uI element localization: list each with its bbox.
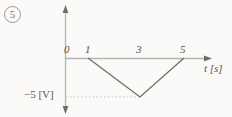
x-axis-arrow-right-icon [204, 56, 212, 62]
x-tick-label-1: 1 [85, 44, 91, 55]
x-tick-label-5: 5 [180, 44, 186, 55]
x-axis [65, 56, 212, 62]
y-axis-voltage-label: −5 [V] [24, 89, 54, 100]
waveform-figure: 5 0 1 3 5 t [s] −5 [V] [0, 0, 232, 117]
x-tick-label-3: 3 [136, 44, 142, 55]
x-axis-label: t [s] [204, 63, 223, 74]
y-axis [63, 5, 69, 114]
x-tick-label-0: 0 [64, 44, 70, 55]
waveform-curve [88, 58, 184, 97]
y-axis-arrow-down-icon [63, 106, 69, 114]
y-axis-arrow-up-icon [63, 5, 69, 13]
item-number-badge: 5 [4, 6, 21, 23]
